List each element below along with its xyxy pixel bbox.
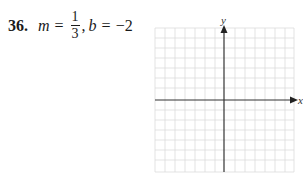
x-axis-label: x — [297, 94, 303, 106]
y-axis-arrow-icon — [221, 25, 228, 33]
y-axis-label: y — [220, 14, 226, 26]
coordinate-grid: x y — [0, 0, 303, 180]
axes — [155, 30, 293, 172]
